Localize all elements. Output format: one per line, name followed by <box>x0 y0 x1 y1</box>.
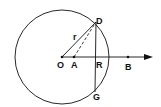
arrow-head-icon <box>144 54 153 60</box>
point-O <box>61 56 64 59</box>
label-O: O <box>57 60 64 70</box>
dashed-AD <box>74 22 96 57</box>
label-D: D <box>96 16 103 26</box>
point-B <box>127 56 130 59</box>
label-A: A <box>71 60 78 70</box>
label-R: R <box>96 60 103 70</box>
geometry-diagram: O A R B D G r <box>0 0 161 107</box>
radius-OD <box>62 22 96 57</box>
point-A <box>73 56 76 59</box>
label-r: r <box>73 32 77 42</box>
chord-DG <box>95 22 96 92</box>
label-B: B <box>125 62 132 72</box>
label-G: G <box>93 92 100 102</box>
